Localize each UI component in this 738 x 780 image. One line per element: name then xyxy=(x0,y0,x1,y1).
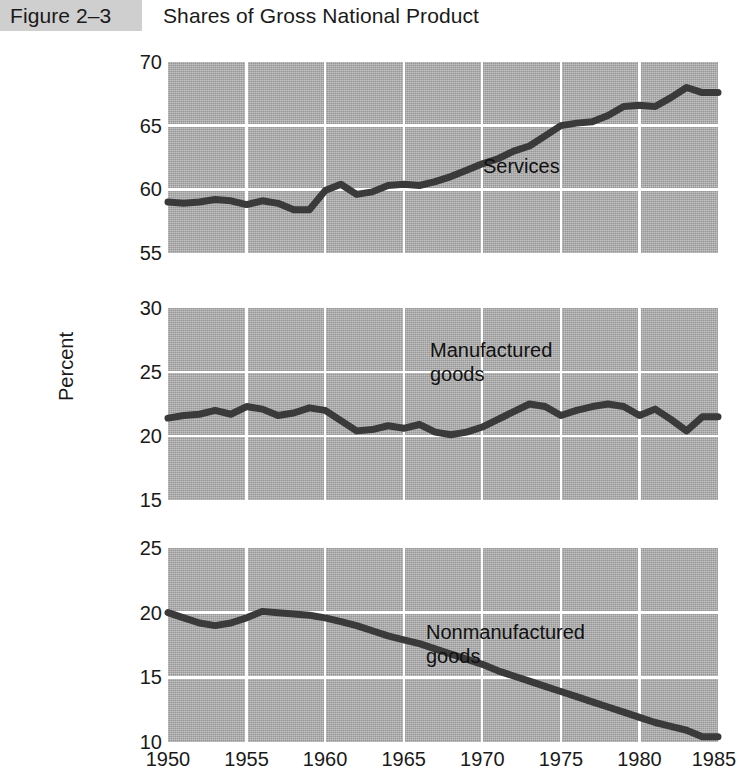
panel-services: Services xyxy=(168,62,718,253)
ytick-nonmanufactured-15: 15 xyxy=(106,667,162,687)
ytick-services-55: 55 xyxy=(106,243,162,263)
xtick-1970: 1970 xyxy=(460,748,505,771)
panel-manufactured-goods-plot xyxy=(168,308,718,500)
ytick-nonmanufactured-25: 25 xyxy=(106,538,162,558)
panel-nonmanufactured-goods: Nonmanufactured goods xyxy=(168,548,718,742)
series-label-nonmanufactured-goods: Nonmanufactured goods xyxy=(426,620,585,668)
y-axis-title: Percent xyxy=(55,297,78,437)
panel-manufactured-goods: Manufactured goods xyxy=(168,308,718,500)
xtick-1955: 1955 xyxy=(224,748,269,771)
xtick-1985: 1985 xyxy=(692,748,737,771)
xtick-1980: 1980 xyxy=(617,748,662,771)
ytick-services-65: 65 xyxy=(106,116,162,136)
gridlines-services xyxy=(168,62,718,253)
chart-canvas: Percent Services 70 65 60 55 xyxy=(0,0,738,780)
panel-services-plot xyxy=(168,62,718,253)
series-line-services xyxy=(168,87,718,209)
ytick-manufactured-15: 15 xyxy=(106,490,162,510)
ytick-manufactured-30: 30 xyxy=(106,298,162,318)
ytick-services-60: 60 xyxy=(106,179,162,199)
series-label-manufactured-goods: Manufactured goods xyxy=(430,338,552,386)
ytick-services-70: 70 xyxy=(106,52,162,72)
xtick-1975: 1975 xyxy=(539,748,584,771)
xtick-1965: 1965 xyxy=(381,748,426,771)
series-label-services: Services xyxy=(483,154,560,178)
xtick-1960: 1960 xyxy=(303,748,348,771)
ytick-manufactured-25: 25 xyxy=(106,362,162,382)
ytick-nonmanufactured-20: 20 xyxy=(106,603,162,623)
ytick-manufactured-20: 20 xyxy=(106,426,162,446)
series-line-manufactured-goods xyxy=(168,404,718,435)
xtick-1950: 1950 xyxy=(146,748,191,771)
